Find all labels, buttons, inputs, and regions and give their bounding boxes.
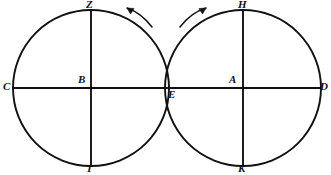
point-label-C: C bbox=[3, 81, 10, 92]
point-label-Z: Z bbox=[86, 0, 93, 10]
right-rotation-arrow bbox=[180, 8, 206, 27]
point-label-K: K bbox=[238, 163, 245, 174]
point-label-B: B bbox=[78, 74, 85, 85]
left-rotation-arrow bbox=[127, 8, 152, 27]
point-label-A: A bbox=[229, 74, 236, 85]
diagram-canvas bbox=[0, 0, 331, 175]
point-label-E: E bbox=[168, 89, 175, 100]
point-label-H: H bbox=[238, 0, 247, 10]
figure-container: C B Z T E A H K D bbox=[0, 0, 331, 175]
point-label-T: T bbox=[86, 163, 93, 174]
point-label-D: D bbox=[320, 81, 328, 92]
